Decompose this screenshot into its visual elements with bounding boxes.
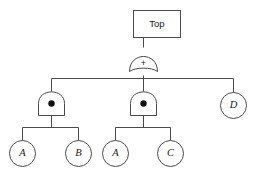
- basic-event-a-right[interactable]: A: [103, 141, 129, 167]
- or-gate-root[interactable]: +: [130, 57, 158, 72]
- and-gate-left-dot-icon: [48, 100, 54, 106]
- basic-event-a-left-label: A: [18, 147, 26, 158]
- basic-event-c[interactable]: C: [158, 141, 184, 167]
- basic-event-a-left[interactable]: A: [10, 141, 36, 167]
- or-gate-symbol-label: +: [141, 58, 146, 68]
- connector-lines: [23, 38, 234, 141]
- fault-tree-canvas: Top + A B A: [0, 0, 263, 174]
- and-gate-left[interactable]: [39, 92, 65, 116]
- and-gate-middle[interactable]: [131, 92, 157, 116]
- top-event-node[interactable]: Top: [134, 11, 181, 38]
- and-gate-middle-dot-icon: [140, 100, 146, 106]
- basic-event-b-label: B: [75, 147, 82, 158]
- basic-event-a-right-label: A: [111, 147, 119, 158]
- top-event-label: Top: [149, 18, 164, 29]
- basic-event-d[interactable]: D: [221, 93, 247, 119]
- fault-tree-diagram: Top + A B A: [0, 0, 263, 174]
- basic-event-b[interactable]: B: [66, 141, 92, 167]
- basic-event-d-label: D: [229, 99, 238, 110]
- basic-event-c-label: C: [167, 147, 175, 158]
